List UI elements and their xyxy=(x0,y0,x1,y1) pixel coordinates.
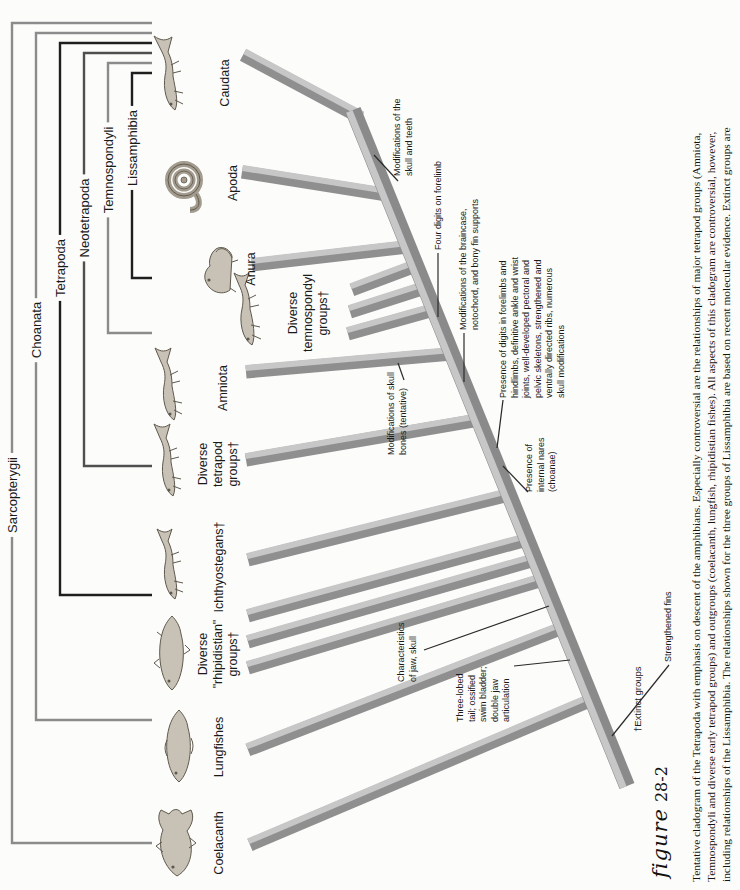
taxon-label-rhipidistian-groups: Diverse "rhipidistian" groups† xyxy=(196,620,241,689)
bracket-label-lissamphibia: Lissamphibia xyxy=(125,106,140,190)
caecilian-coil-illustration-icon xyxy=(168,164,200,210)
taxon-label-coelacanth: Coelacanth xyxy=(212,811,227,874)
lungfish-illustration-icon xyxy=(165,710,193,782)
taxon-label-temnospondyl-groups: Diverse temnospondyl groups† xyxy=(286,274,331,352)
taxon-label-anura: Anura xyxy=(244,252,259,285)
salamander-illustration-icon xyxy=(154,36,183,110)
bracket-label-sarcopterygii: Sarcopterygii xyxy=(5,453,20,537)
taxon-label-apoda: Apoda xyxy=(226,165,241,201)
annotation-jaw-skull: Characteristics of jaw, skull xyxy=(396,622,419,682)
figure-code: 28-2 xyxy=(652,766,671,802)
annotation-strengthened-fins: Strengthened fins xyxy=(663,591,675,662)
annotation-four-digits: Four digits on forelimb xyxy=(433,161,445,250)
bracket-label-neotetrapoda: Neotetrapoda xyxy=(77,175,92,262)
branch-tetrapod-groups xyxy=(245,416,479,460)
annotation-skull-bones: Modifications of skull bones (tentative) xyxy=(386,372,409,455)
figure-word: figure xyxy=(648,808,672,878)
taxon-label-caudata: Caudata xyxy=(218,59,233,106)
callout-digits xyxy=(497,400,503,448)
branch-anura xyxy=(252,243,409,265)
rhipidistian-illustration-icon xyxy=(154,616,190,690)
bracket-label-choanata: Choanata xyxy=(29,298,44,362)
coelacanth-illustration-icon xyxy=(156,810,196,877)
bracket-label-tetrapoda: Tetrapoda xyxy=(53,235,68,301)
extinct-groups-footnote: †Extinct groups xyxy=(632,667,643,732)
caption-line-2: Temnospondyli and diverse early tetrapod… xyxy=(704,132,719,882)
annotation-internal-nares: Presence of internal nares (choanae) xyxy=(524,437,559,492)
figure-page: Sarcopterygii Choanata Tetrapoda Neotetr… xyxy=(0,0,740,890)
annotation-braincase: Modifications of the braincase, notochor… xyxy=(458,199,481,330)
tetrapod-group-illustration-icon xyxy=(154,424,181,496)
taxon-label-tetrapod-groups: Diverse tetrapod groups† xyxy=(196,441,241,487)
callout-three-lobed xyxy=(514,660,570,666)
frog-illustration-icon xyxy=(205,247,238,292)
ichthyostegan-illustration-icon xyxy=(157,529,183,599)
rotated-cladogram-figure: Sarcopterygii Choanata Tetrapoda Neotetr… xyxy=(0,0,740,890)
annotation-three-lobed-tail: Three-lobed tail; ossified swim bladder;… xyxy=(455,666,513,722)
branch-coelacanth xyxy=(248,696,592,845)
bracket-line-neotetrapoda xyxy=(84,53,152,466)
taxon-label-amniota: Amniota xyxy=(216,365,231,411)
figure-number: figure28-2 xyxy=(648,766,672,878)
caption-line-3: including relationships of the Lissamphi… xyxy=(719,127,734,882)
caption-line-1: Tentative cladogram of the Tetrapoda wit… xyxy=(689,133,704,882)
taxon-label-lungfishes: Lungfishes xyxy=(212,717,227,777)
branch-apoda xyxy=(242,168,388,195)
branch-temnospondyl-3 xyxy=(351,262,416,290)
annotation-skull-teeth: Modifications of the skull and teeth xyxy=(392,98,415,176)
annotation-presence-of-digits: Presence of digits in forelimbs and hind… xyxy=(498,257,567,398)
taxon-label-ichthyostegans: Ichthyostegans† xyxy=(212,521,227,612)
branch-amniota xyxy=(246,350,452,372)
bracket-label-temnospondyli: Temnospondyli xyxy=(101,123,116,218)
amniota-illustration-icon xyxy=(155,348,182,420)
branch-caudata xyxy=(243,52,363,119)
